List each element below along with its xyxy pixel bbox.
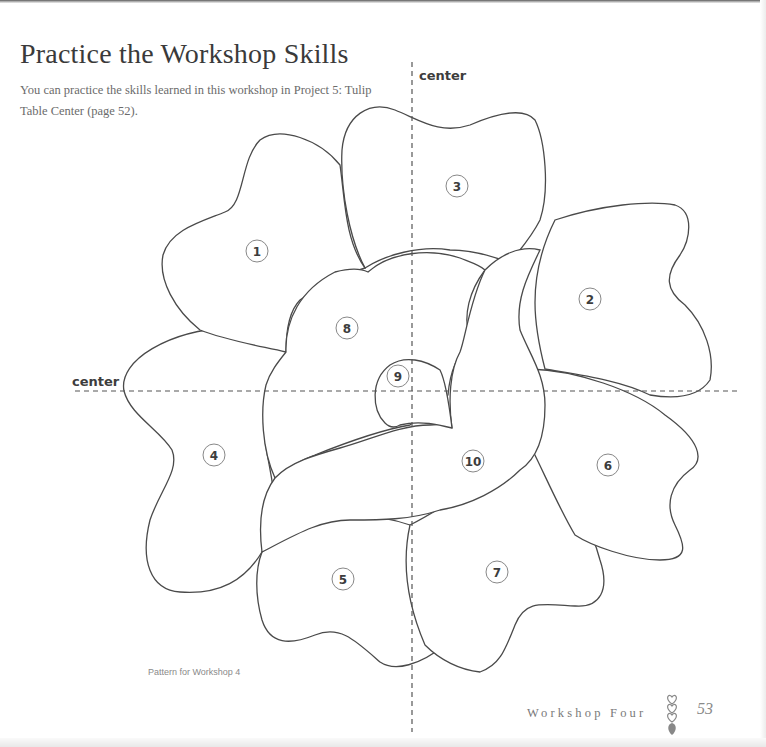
piece-label-10: 10 bbox=[462, 450, 484, 472]
footer-section-title: Workshop Four bbox=[527, 706, 646, 721]
piece-label-1: 1 bbox=[246, 240, 268, 262]
svg-text:10: 10 bbox=[465, 455, 482, 469]
piece-label-5: 5 bbox=[332, 568, 354, 590]
svg-text:3: 3 bbox=[453, 180, 461, 194]
horizontal-center-label: center bbox=[72, 374, 120, 389]
piece-label-3: 3 bbox=[446, 175, 468, 197]
stacked-hearts-icon bbox=[665, 694, 679, 736]
piece-label-4: 4 bbox=[203, 444, 225, 466]
svg-text:6: 6 bbox=[604, 459, 612, 473]
svg-text:2: 2 bbox=[586, 293, 594, 307]
piece-label-7: 7 bbox=[486, 561, 508, 583]
page-number: 53 bbox=[697, 700, 713, 718]
petal-3 bbox=[342, 107, 546, 268]
piece-9-shape bbox=[375, 360, 452, 428]
piece-label-2: 2 bbox=[579, 288, 601, 310]
piece-label-6: 6 bbox=[597, 454, 619, 476]
piece-label-9: 9 bbox=[387, 365, 409, 387]
petal-2 bbox=[535, 203, 711, 397]
svg-text:1: 1 bbox=[253, 245, 261, 259]
flower-pattern: center center 1 2 3 4 5 6 7 8 9 10 bbox=[0, 0, 766, 747]
svg-text:4: 4 bbox=[210, 449, 218, 463]
svg-text:7: 7 bbox=[493, 566, 501, 580]
vertical-center-label: center bbox=[419, 68, 467, 83]
pattern-caption: Pattern for Workshop 4 bbox=[148, 667, 240, 677]
svg-text:9: 9 bbox=[394, 370, 402, 384]
piece-label-8: 8 bbox=[336, 317, 358, 339]
svg-text:5: 5 bbox=[339, 573, 347, 587]
svg-text:8: 8 bbox=[343, 322, 351, 336]
